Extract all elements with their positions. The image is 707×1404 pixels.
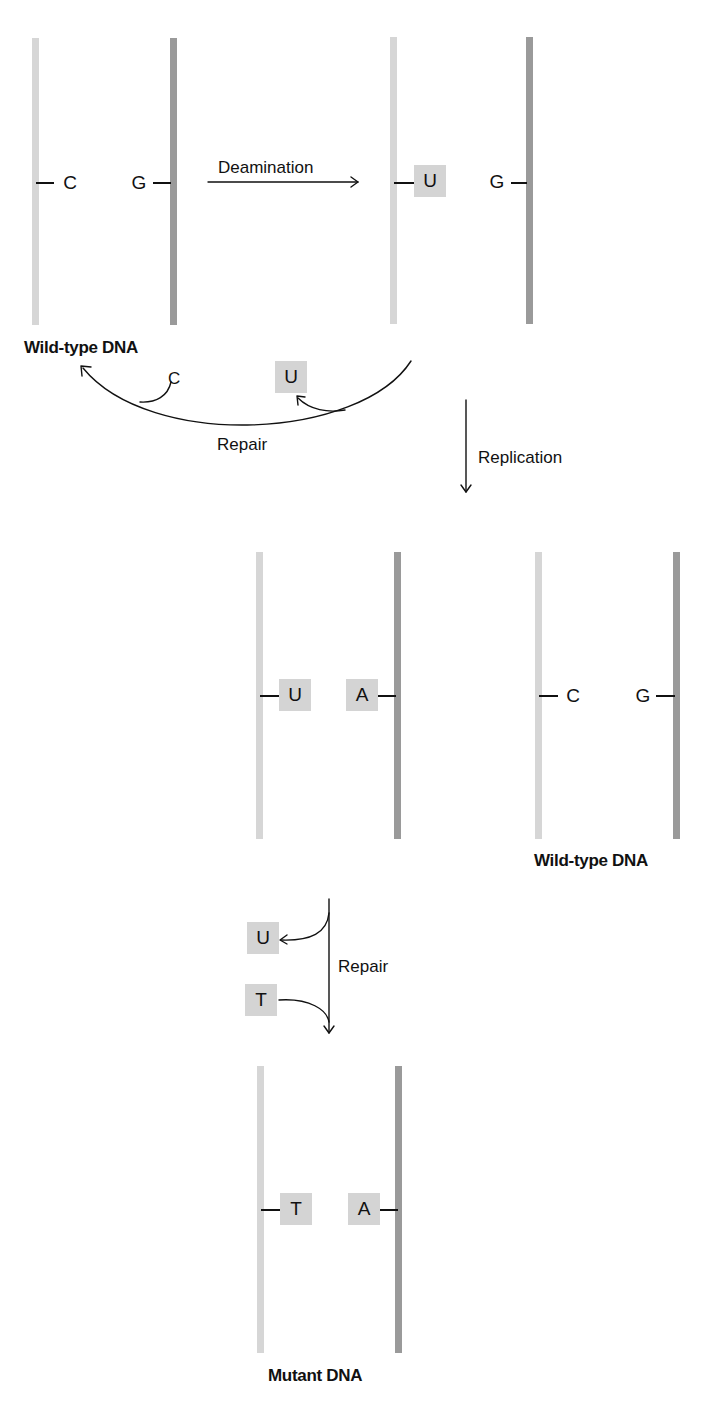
replication-label: Replication (478, 448, 562, 468)
bond-line (153, 182, 171, 184)
repair-label-2: Repair (338, 957, 388, 977)
deamination-label: Deamination (218, 158, 313, 178)
light-strand (390, 37, 397, 324)
repair-inserted-base: C (168, 369, 180, 389)
bond-line (380, 1209, 398, 1211)
bond-line (378, 695, 396, 697)
bond-line (656, 695, 675, 697)
bond-line (539, 695, 558, 697)
base-left: C (62, 167, 78, 199)
repair-label-1: Repair (217, 435, 267, 455)
dark-strand (170, 38, 177, 325)
base-right: G (130, 167, 148, 199)
replication-arrow-icon (461, 400, 471, 492)
repair-2-arrow-icon (279, 899, 334, 1033)
base-right: G (634, 680, 652, 712)
bond-line (260, 695, 280, 697)
deamination-arrow-icon (208, 177, 358, 187)
repair-inserted-base: T (245, 984, 277, 1016)
bond-line (511, 182, 527, 184)
base-right-adenine: A (348, 1193, 380, 1225)
base-left-thymine: T (280, 1193, 312, 1225)
repair-removed-base: U (275, 361, 307, 393)
bond-line (36, 182, 54, 184)
repair-removed-base: U (247, 922, 279, 954)
base-left-uracil: U (414, 165, 446, 197)
base-right-adenine: A (346, 679, 378, 711)
panel-label: Mutant DNA (268, 1366, 362, 1386)
repair-arc-arrow-icon (81, 361, 411, 425)
dark-strand (526, 37, 533, 324)
base-right: G (488, 166, 506, 198)
base-left-uracil: U (279, 679, 311, 711)
base-left: C (565, 680, 581, 712)
bond-line (261, 1209, 281, 1211)
bond-line (394, 182, 414, 184)
panel-label: Wild-type DNA (534, 851, 648, 871)
panel-label: Wild-type DNA (24, 338, 138, 358)
